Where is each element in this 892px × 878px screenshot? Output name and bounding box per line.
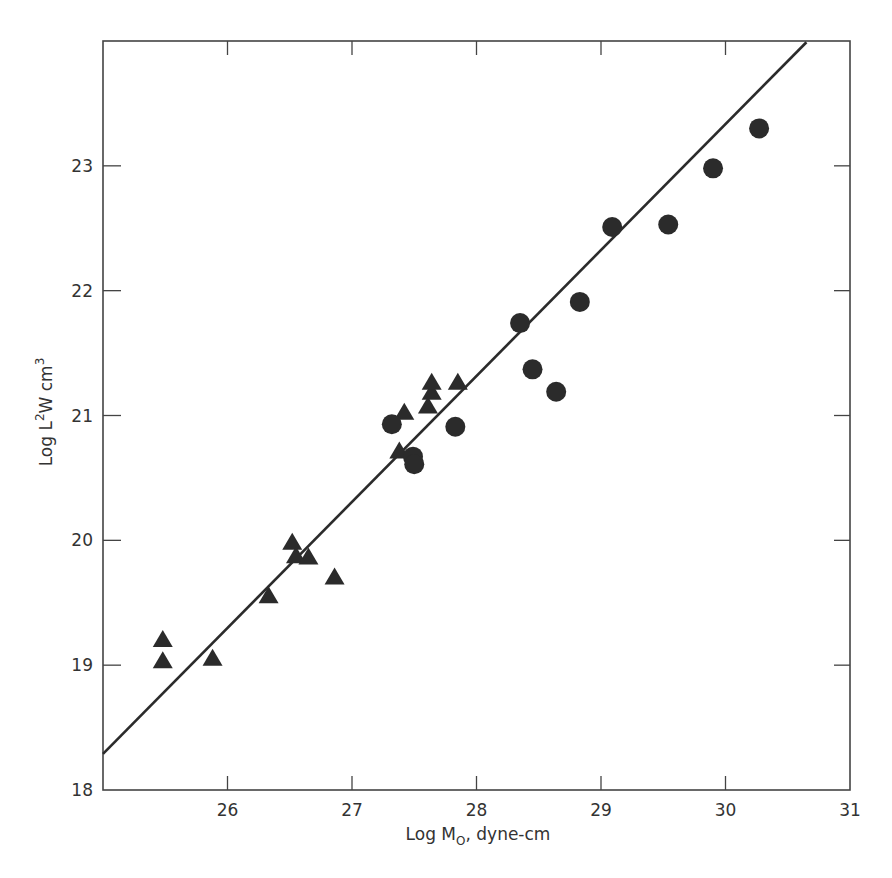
y-tick-label: 22 xyxy=(71,281,93,301)
x-tick-label: 30 xyxy=(715,800,737,820)
triangle-marker-icon xyxy=(153,630,173,647)
circle-marker-icon xyxy=(570,292,590,312)
regression-line xyxy=(103,42,806,754)
circle-marker-icon xyxy=(546,382,566,402)
y-tick-label: 23 xyxy=(71,156,93,176)
circle-marker-icon xyxy=(658,215,678,235)
y-tick-label: 18 xyxy=(71,780,93,800)
circle-marker-icon xyxy=(703,158,723,178)
triangle-marker-icon xyxy=(153,651,173,668)
x-tick-label: 28 xyxy=(466,800,488,820)
y-tick-label: 20 xyxy=(71,530,93,550)
circle-marker-icon xyxy=(445,417,465,437)
y-axis-label: Log L2W cm3 xyxy=(33,358,56,467)
x-tick-label: 29 xyxy=(590,800,612,820)
circle-marker-icon xyxy=(510,313,530,333)
scatter-chart: 262728293031181920212223 Log MO, dyne-cm… xyxy=(0,0,892,878)
x-tick-label: 27 xyxy=(341,800,363,820)
circle-marker-icon xyxy=(404,454,424,474)
plot-frame xyxy=(103,41,850,790)
triangle-marker-icon xyxy=(448,373,468,390)
circle-marker-icon xyxy=(523,359,543,379)
axis-ticks xyxy=(103,41,850,790)
y-tick-label: 21 xyxy=(71,406,93,426)
triangle-marker-icon xyxy=(325,568,345,585)
x-tick-label: 26 xyxy=(217,800,239,820)
y-tick-label: 19 xyxy=(71,655,93,675)
tick-labels: 262728293031181920212223 xyxy=(71,156,860,820)
circle-marker-icon xyxy=(382,414,402,434)
triangle-marker-icon xyxy=(282,533,302,550)
circle-marker-icon xyxy=(602,217,622,237)
x-tick-label: 31 xyxy=(839,800,861,820)
circle-marker-icon xyxy=(749,118,769,138)
x-axis-label: Log MO, dyne-cm xyxy=(406,824,551,848)
triangle-marker-icon xyxy=(422,373,442,390)
